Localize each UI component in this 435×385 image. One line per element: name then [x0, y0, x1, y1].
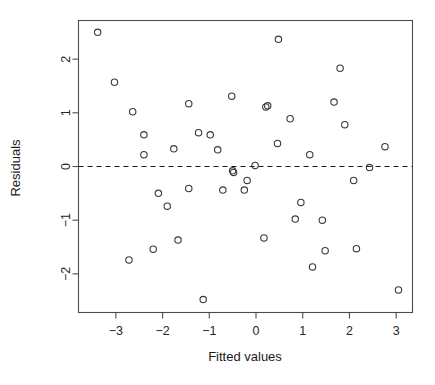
x-tick-label: −3 [109, 324, 123, 338]
residuals-vs-fitted-plot: −3−2−10123 −2−1012 Fitted values Residua… [0, 0, 435, 385]
x-tick-label: −1 [202, 324, 216, 338]
y-tick-label: −1 [59, 213, 73, 227]
plot-canvas: −3−2−10123 −2−1012 Fitted values Residua… [0, 0, 435, 385]
y-tick-label: 1 [59, 109, 73, 116]
x-tick-label: 0 [253, 324, 260, 338]
y-tick-label: 0 [59, 163, 73, 170]
y-tick-label: 2 [59, 56, 73, 63]
x-tick-label: 2 [346, 324, 353, 338]
x-tick-label: −2 [155, 324, 169, 338]
y-axis-title: Residuals [8, 139, 23, 197]
x-tick-label: 1 [299, 324, 306, 338]
y-tick-label: −2 [59, 267, 73, 281]
x-axis-title: Fitted values [208, 349, 282, 364]
x-tick-label: 3 [393, 324, 400, 338]
